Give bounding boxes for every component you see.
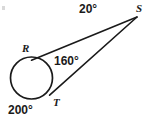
geometry-figure: 20° 160° 200° R S T	[0, 0, 150, 124]
arc-label-major: 200°	[8, 104, 33, 116]
tangent-segment-sr	[32, 17, 138, 60]
point-label-t: T	[53, 97, 60, 108]
arc-label-minor: 160°	[54, 55, 79, 67]
point-label-s: S	[136, 3, 142, 14]
angle-label-s: 20°	[79, 3, 97, 15]
point-label-r: R	[22, 43, 29, 54]
circle-shape	[11, 57, 53, 99]
